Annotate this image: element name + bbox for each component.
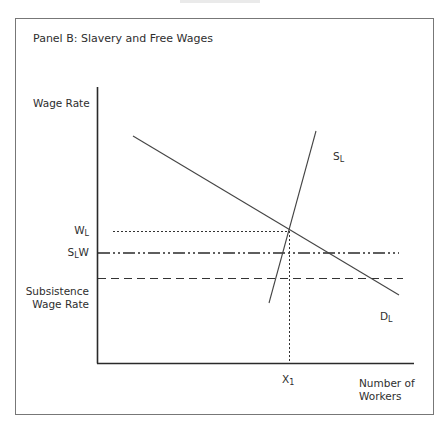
demand-curve [133, 136, 399, 295]
supply-curve [269, 131, 316, 303]
diagram-svg [0, 0, 446, 433]
